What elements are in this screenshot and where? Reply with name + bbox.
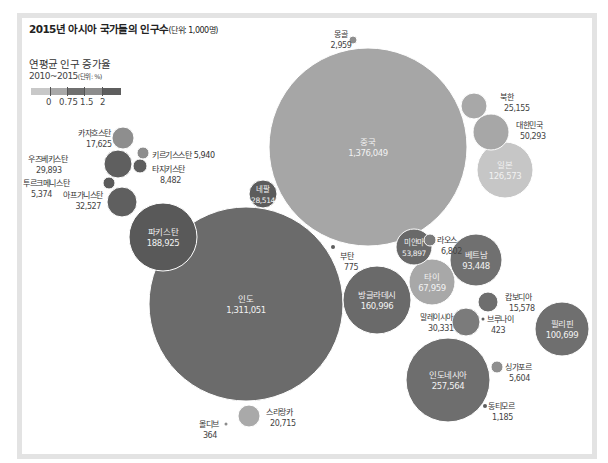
bubble-value-label: 1,185 <box>492 413 513 422</box>
bubble: 파키스탄188,925 <box>129 203 197 271</box>
bubble-country-label: 키르기스스탄 5,940 <box>152 150 215 160</box>
bubble: 필리핀100,699 <box>535 302 589 356</box>
bubble-value-label: 25,155 <box>504 104 530 113</box>
bubble-circle <box>343 266 411 334</box>
bubble-country-label: 몰디브 <box>199 420 219 429</box>
bubble-circle <box>473 114 509 150</box>
bubble: 중국1,376,049 <box>269 48 467 246</box>
bubble-country-label: 몽골 <box>334 30 348 39</box>
bubble-country-label: 인도네시아 <box>429 370 467 380</box>
bubble-plot: 중국1,376,049인도1,311,051파키스탄188,925인도네시아25… <box>0 0 608 463</box>
bubble-circle <box>478 292 498 312</box>
bubble-circle <box>461 93 487 119</box>
bubble-value-label: 188,925 <box>147 238 179 248</box>
bubble-country-label: 대한민국 <box>516 120 543 130</box>
bubble-country-label: 타지키스탄 <box>152 164 186 174</box>
bubble-value-label: 1,311,051 <box>226 305 266 315</box>
bubble-country-label: 투르크메니스탄 <box>23 178 71 188</box>
bubble-country-label: 미얀마 <box>404 237 424 247</box>
bubble-country-label: 네팔 <box>256 184 270 194</box>
bubble-circle <box>107 187 137 217</box>
bubble-country-label: 스리랑카 <box>266 407 294 417</box>
bubble: 카자흐스탄17,625 <box>78 127 134 149</box>
bubble-country-label: 싱가포르 <box>505 362 532 372</box>
bubble-circle <box>331 245 335 249</box>
bubble-circle <box>491 361 503 373</box>
bubble: 방글라데시160,996 <box>343 266 411 334</box>
bubble-value-label: 5,374 <box>31 190 52 199</box>
bubble: 몰디브364 <box>199 420 227 440</box>
bubble-value-label: 20,715 <box>270 419 296 428</box>
bubble-circle <box>225 423 228 426</box>
bubble-value-label: 17,625 <box>86 140 112 149</box>
bubble-country-label: 일본 <box>497 160 513 170</box>
bubble-country-label: 캄보디아 <box>505 292 533 302</box>
bubble-circle <box>424 234 436 246</box>
bubble-circle <box>477 142 533 198</box>
bubble-value-label: 5,604 <box>509 374 530 383</box>
bubble-value-label: 2,959 <box>331 41 352 50</box>
bubble-value-label: 28,514 <box>251 196 275 205</box>
bubble-value-label: 364 <box>203 431 217 440</box>
bubble-circle <box>104 150 132 178</box>
bubble-value-label: 8,482 <box>160 176 181 185</box>
bubble-circle <box>482 318 485 321</box>
bubble-circle <box>406 338 490 422</box>
bubble: 키르기스스탄 5,940 <box>137 147 215 160</box>
bubble-value-label: 423 <box>491 326 505 335</box>
bubble: 싱가포르5,604 <box>491 361 532 383</box>
bubble-value-label: 32,527 <box>75 202 101 211</box>
bubble-value-label: 100,699 <box>546 330 578 340</box>
bubble-value-label: 15,578 <box>509 304 535 313</box>
bubble-country-label: 우즈베키스탄 <box>28 154 69 164</box>
bubble-circle <box>269 48 467 246</box>
bubble: 아프가니스탄32,527 <box>63 187 137 217</box>
bubble-country-label: 부탄 <box>340 251 355 261</box>
bubble-country-label: 라오스 <box>437 236 457 245</box>
bubble: 타이67,959 <box>409 259 455 305</box>
bubble-value-label: 93,448 <box>462 261 489 271</box>
bubble: 캄보디아15,578 <box>478 292 535 313</box>
bubble-country-label: 중국 <box>360 137 376 147</box>
bubble-value-label: 53,897 <box>402 249 426 258</box>
bubble-country-label: 북한 <box>500 93 515 102</box>
bubble: 인도네시아257,564 <box>406 338 490 422</box>
bubble-country-label: 말레이시아 <box>420 312 454 322</box>
bubble-value-label: 257,564 <box>432 381 464 391</box>
bubble-country-label: 인도 <box>238 294 254 304</box>
bubble: 스리랑카20,715 <box>238 405 296 428</box>
bubble: 말레이시아30,331 <box>420 308 480 336</box>
bubble-country-label: 아프가니스탄 <box>63 190 104 200</box>
bubble: 브루나이423 <box>482 314 514 335</box>
bubble-circle <box>238 405 260 427</box>
bubble-circle <box>103 177 115 189</box>
bubble-value-label: 6,802 <box>441 247 462 256</box>
bubble-country-label: 파키스탄 <box>148 227 179 237</box>
bubble-circle <box>396 229 432 265</box>
bubble-value-label: 29,893 <box>36 166 62 175</box>
bubble-value-label: 1,376,049 <box>348 148 388 158</box>
bubble-circle <box>112 127 134 149</box>
bubble: 베트남93,448 <box>450 234 502 286</box>
bubble-circle <box>452 308 480 336</box>
bubble-country-label: 필리핀 <box>551 319 574 329</box>
bubble-value-label: 30,331 <box>428 324 454 333</box>
bubble: 몽골2,959 <box>331 30 357 50</box>
bubble: 타지키스탄8,482 <box>133 159 186 185</box>
bubble-circle <box>409 259 455 305</box>
bubble: 미얀마53,897 <box>396 229 432 265</box>
bubble-country-label: 브루나이 <box>487 314 514 324</box>
bubble-value-label: 775 <box>344 263 358 272</box>
bubble-country-label: 베트남 <box>465 250 488 260</box>
bubble-country-label: 카자흐스탄 <box>78 128 112 138</box>
bubble: 동티모르1,185 <box>483 402 515 422</box>
bubble-country-label: 타이 <box>424 272 439 282</box>
bubble-value-label: 160,996 <box>361 301 393 311</box>
bubble: 일본126,573 <box>477 142 533 198</box>
bubble-circle <box>129 203 197 271</box>
bubble-circle <box>450 234 502 286</box>
bubble-circle <box>535 302 589 356</box>
bubble-country-label: 동티모르 <box>488 402 515 411</box>
bubble: 네팔28,514 <box>249 180 277 208</box>
bubble-value-label: 50,293 <box>520 132 546 141</box>
